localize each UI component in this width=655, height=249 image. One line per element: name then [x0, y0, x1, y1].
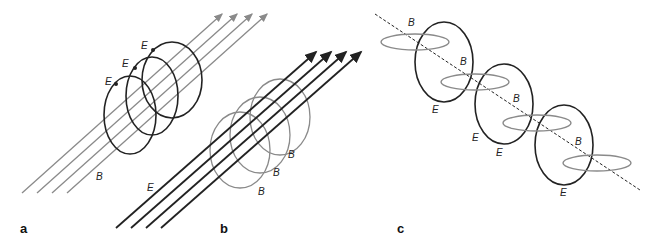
panel-label-c: c: [397, 222, 404, 235]
panel-label-a: a: [20, 222, 27, 235]
label-b-b1: B: [258, 187, 265, 197]
label-a-e3: E: [141, 41, 148, 51]
label-a-e1: E: [105, 77, 112, 87]
label-b-b2: B: [273, 168, 280, 178]
label-c-b1: B: [408, 18, 415, 28]
label-b-e: E: [147, 183, 154, 193]
panel-b-graphic: [116, 52, 361, 228]
label-a-b: B: [96, 172, 103, 182]
label-c-e3: E: [496, 148, 503, 158]
label-c-e4: E: [560, 188, 567, 198]
label-c-e2: E: [472, 133, 479, 143]
panel-c-graphic: [375, 14, 640, 190]
label-c-b2: B: [460, 57, 467, 67]
propagation-axis: [375, 14, 640, 190]
e-field-lines: [116, 52, 361, 228]
diagram-canvas: [0, 0, 655, 249]
em-field-diagram: E E E B E B B B B B B B E E E E a b c: [0, 0, 655, 249]
label-c-b3: B: [513, 94, 520, 104]
panel-label-b: b: [220, 222, 228, 235]
label-b-b3: B: [288, 150, 295, 160]
label-c-e1: E: [432, 105, 439, 115]
label-c-b4: B: [575, 137, 582, 147]
label-a-e2: E: [122, 59, 129, 69]
